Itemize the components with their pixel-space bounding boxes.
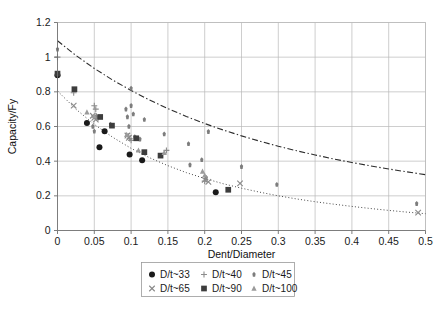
legend-label: D/t~65 — [160, 283, 190, 294]
data-point-circle — [139, 157, 145, 163]
legend-marker-circle — [149, 272, 155, 278]
legend-label: D/t~100 — [262, 283, 298, 294]
data-point-circle — [127, 152, 133, 158]
y-tick-label: 0.2 — [36, 189, 51, 201]
data-point-circle — [213, 189, 219, 195]
x-tick-label: 0.45 — [378, 235, 399, 247]
y-tick-label: 0.6 — [36, 120, 51, 132]
legend-label: D/t~90 — [212, 283, 242, 294]
legend-marker-square — [201, 286, 207, 292]
legend-label: D/t~40 — [212, 269, 242, 280]
legend-label: D/t~45 — [262, 269, 292, 280]
x-tick-label: 0.3 — [271, 235, 286, 247]
chart-figure: 00.20.40.60.811.200.050.10.150.20.250.30… — [0, 0, 436, 311]
chart-legend[interactable]: D/t~33D/t~40D/t~45D/t~65D/t~90D/t~100 — [142, 263, 298, 297]
x-tick-label: 0 — [55, 235, 61, 247]
data-point-square — [109, 123, 115, 129]
y-tick-label: 0.4 — [36, 155, 51, 167]
x-tick-label: 0.5 — [418, 235, 433, 247]
x-axis-title: Dent/Diameter — [208, 248, 276, 260]
data-point-square — [97, 114, 103, 120]
data-point-circle — [96, 144, 102, 150]
y-tick-label: 0 — [45, 224, 51, 236]
x-tick-label: 0.35 — [305, 235, 326, 247]
data-point-square — [225, 187, 231, 193]
x-tick-label: 0.1 — [124, 235, 139, 247]
data-point-square — [72, 86, 78, 92]
data-point-square — [133, 135, 139, 141]
legend-label: D/t~33 — [160, 269, 190, 280]
y-axis-title: Capacity/Fy — [6, 98, 18, 154]
y-tick-label: 1 — [45, 51, 51, 63]
scatter-plot-svg: 00.20.40.60.811.200.050.10.150.20.250.30… — [0, 0, 436, 311]
data-point-square — [141, 149, 147, 155]
data-point-circle — [84, 120, 90, 126]
x-tick-label: 0.05 — [84, 235, 105, 247]
x-tick-label: 0.2 — [197, 235, 212, 247]
y-tick-label: 0.8 — [36, 85, 51, 97]
x-tick-label: 0.25 — [231, 235, 252, 247]
x-tick-label: 0.4 — [345, 235, 360, 247]
x-tick-label: 0.15 — [158, 235, 179, 247]
y-tick-label: 1.2 — [36, 16, 51, 28]
data-point-circle — [102, 128, 108, 134]
